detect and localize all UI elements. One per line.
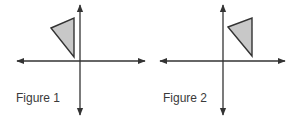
figure-2-label: Figure 2	[163, 91, 207, 105]
figure-1-triangle	[51, 18, 74, 57]
figure-2-triangle	[228, 18, 252, 56]
figure-1-label: Figure 1	[16, 91, 60, 105]
